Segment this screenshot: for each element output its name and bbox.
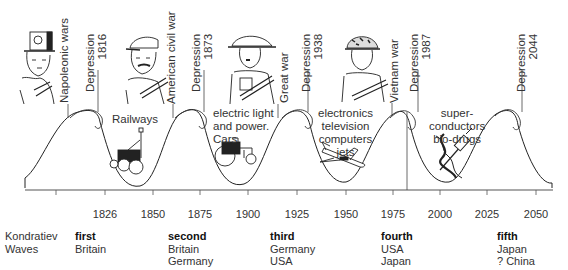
civil-war-soldier-icon [126, 37, 168, 104]
tech-label-superconductors: super- conductors bio-drugs [429, 107, 485, 146]
tick-label: 1850 [141, 208, 165, 220]
event-label-depression-1938: Depression 1938 [300, 34, 324, 92]
wave-second: second Britain Germany [168, 230, 213, 268]
event-label-napoleonic-wars: Napoleonic wars [58, 18, 70, 103]
locomotive-icon [110, 128, 143, 174]
wave-fourth: fourth USA Japan [381, 230, 413, 268]
tech-label-electric-cars: electric light and power. Cars [213, 107, 274, 146]
event-label-depression-1816: Depression 1816 [84, 34, 108, 92]
event-label-american-civil-war: American civil war [165, 11, 177, 104]
tick-label: 1975 [381, 208, 405, 220]
vietnam-soldier-icon [342, 37, 388, 102]
wave-fifth: fifth Japan ? China [497, 230, 535, 268]
kondratiev-waves-label: Kondratiev Waves [5, 230, 58, 255]
tech-label-electronics: electronics television computers jets [318, 107, 373, 159]
tick-label: 1826 [93, 208, 117, 220]
tick-label: 2000 [428, 208, 452, 220]
event-label-great-war: Great war [278, 53, 290, 104]
axis-ticks [56, 190, 536, 195]
wave-first: first Britain [75, 230, 106, 255]
tick-label: 1925 [285, 208, 309, 220]
napoleonic-soldier-icon [20, 32, 55, 104]
event-label-depression-1873: Depression 1873 [190, 34, 214, 92]
tick-label: 1875 [188, 208, 212, 220]
event-label-depression-2044: Depression 2044 [515, 34, 539, 92]
tick-label: 2025 [475, 208, 499, 220]
event-label-depression-1987: Depression 1987 [408, 34, 432, 92]
wave-third: third Germany USA [270, 230, 315, 268]
tick-label: 1900 [236, 208, 260, 220]
tech-label-railways: Railways [112, 113, 158, 126]
tick-label: 2050 [524, 208, 548, 220]
event-label-vietnam-war: Vietnam war [388, 39, 400, 103]
tick-label: 1950 [334, 208, 358, 220]
ww1-soldier-icon [228, 36, 276, 104]
